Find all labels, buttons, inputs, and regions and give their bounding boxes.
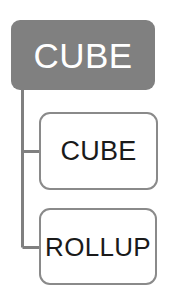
tree-node-child-cube-label: CUBE: [60, 138, 136, 165]
tree-node-child-rollup-label: ROLLUP: [45, 234, 151, 260]
tree-node-root[interactable]: CUBE: [11, 20, 155, 90]
diagram-canvas: CUBE CUBE ROLLUP: [0, 0, 171, 301]
tree-node-child-rollup[interactable]: ROLLUP: [39, 208, 157, 285]
tree-node-root-label: CUBE: [33, 38, 132, 73]
tree-node-child-cube[interactable]: CUBE: [39, 112, 158, 190]
